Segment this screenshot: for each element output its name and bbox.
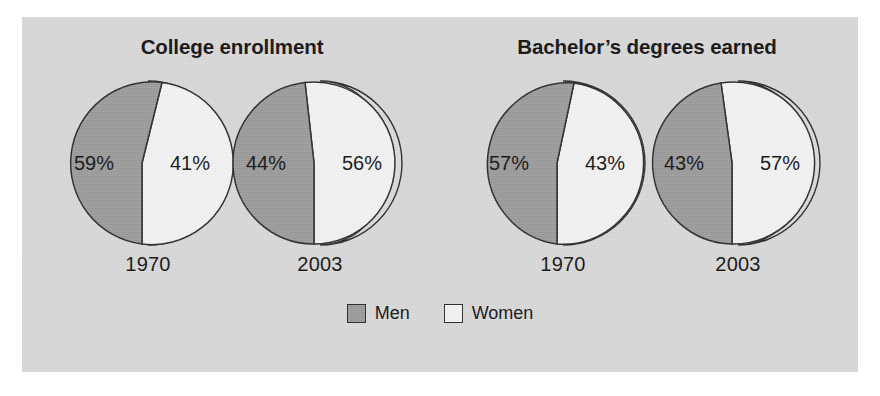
group-title-bachelors-degrees: Bachelor’s degrees earned [442,35,852,59]
legend-label-women: Women [472,303,534,324]
pie-value-label-women: 56% [342,152,382,175]
figure: College enrollment 59% 41 [0,0,880,396]
chart-panel: College enrollment 59% 41 [22,17,858,372]
pie-year-label: 1970 [475,253,651,276]
pie-year-label: 2003 [650,253,826,276]
pie-value-label-men: 43% [664,152,704,175]
legend-swatch-women-icon [444,304,463,323]
pie-value-label-men: 59% [74,152,114,175]
pie-value-label-women: 43% [585,152,625,175]
pie-year-label: 2003 [232,253,408,276]
pie-row-college-enrollment: 59% 41% 1970 44% 56% 2003 [32,75,432,275]
legend-item-men: Men [347,303,410,324]
legend: Men Women [22,303,858,324]
pie-year-label: 1970 [60,253,236,276]
pie-value-label-men: 44% [246,152,286,175]
legend-item-women: Women [444,303,534,324]
pie-value-label-women: 41% [170,152,210,175]
legend-label-men: Men [375,303,410,324]
pie-value-label-women: 57% [760,152,800,175]
pie-chart-college-2003: 44% 56% 2003 [232,75,408,280]
pie-row-bachelors-degrees: 57% 43% 1970 43% 57% 2003 [442,75,852,275]
pie-chart-college-1970: 59% 41% 1970 [60,75,236,280]
pie-chart-bachelors-2003: 43% 57% 2003 [650,75,826,280]
legend-swatch-men-icon [347,304,366,323]
pie-value-label-men: 57% [489,152,529,175]
group-title-college-enrollment: College enrollment [32,35,432,59]
pie-chart-bachelors-1970: 57% 43% 1970 [475,75,651,280]
